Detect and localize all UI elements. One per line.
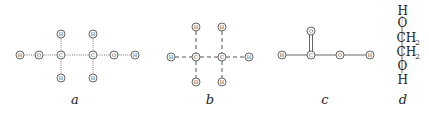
formula-line: CH — [397, 45, 417, 59]
formula-line: O — [398, 16, 408, 30]
panel-b-bonds — [175, 31, 245, 78]
panel-d-formula: H O CH 2 CH 2 O H d — [397, 4, 421, 107]
atom-label: H — [169, 54, 174, 60]
formula-subscript: 2 — [415, 52, 420, 61]
atom-h: H — [192, 23, 200, 31]
panel-b-molecule: H C C H H H H H b — [167, 23, 253, 107]
formula-line: H — [398, 73, 408, 87]
atom-label: C — [309, 52, 313, 58]
atom-c: C — [192, 53, 200, 61]
panel-b-caption: b — [206, 92, 214, 107]
atom-label: O — [309, 28, 313, 34]
atom-c: C — [218, 53, 226, 61]
panel-c-bonds — [286, 35, 366, 55]
atom-h: H — [57, 74, 65, 82]
atom-h: H — [192, 78, 200, 86]
atom-label: H — [91, 31, 96, 37]
panel-a-caption: a — [71, 92, 79, 107]
atom-label: H — [194, 24, 199, 30]
atom-c: C — [57, 51, 65, 59]
atom-c: C — [89, 51, 97, 59]
panel-d-caption: d — [399, 92, 407, 107]
atom-h: H — [366, 51, 374, 59]
atom-h: H — [89, 74, 97, 82]
atom-label: C — [59, 52, 63, 58]
atom-h: H — [167, 53, 175, 61]
atom-label: H — [194, 79, 199, 85]
atom-label: H — [18, 52, 23, 58]
atom-label: H — [220, 24, 225, 30]
panel-a-molecule: H O C C O H H H H H a — [16, 30, 139, 107]
atom-h: H — [16, 51, 24, 59]
atom-h: H — [89, 30, 97, 38]
molecule-figure: H O C C O H H H H H a H C C H H H H H b — [0, 0, 429, 114]
atom-label: C — [194, 54, 198, 60]
atom-h: H — [245, 53, 253, 61]
panel-c-caption: c — [321, 92, 329, 107]
atom-label: H — [91, 75, 96, 81]
atom-h: H — [218, 78, 226, 86]
atom-h: H — [278, 51, 286, 59]
atom-label: H — [220, 79, 225, 85]
atom-h: H — [131, 51, 139, 59]
atom-label: H — [247, 54, 252, 60]
atom-label: H — [59, 75, 64, 81]
atom-h: H — [57, 30, 65, 38]
atom-h: H — [218, 23, 226, 31]
atom-label: H — [133, 52, 138, 58]
atom-o: O — [35, 51, 43, 59]
atom-o: O — [110, 51, 118, 59]
atom-o: O — [307, 27, 315, 35]
atom-c: C — [307, 51, 315, 59]
atom-label: C — [220, 54, 224, 60]
atom-label: H — [59, 31, 64, 37]
atom-label: H — [368, 52, 373, 58]
atom-label: C — [91, 52, 95, 58]
atom-label: O — [112, 52, 116, 58]
atom-o: O — [336, 51, 344, 59]
panel-c-molecule: H C O H O c — [278, 27, 374, 107]
formula-line: CH — [397, 31, 417, 45]
atom-label: O — [338, 52, 342, 58]
formula-line: O — [398, 59, 408, 73]
atom-label: O — [37, 52, 41, 58]
atom-label: H — [280, 52, 285, 58]
